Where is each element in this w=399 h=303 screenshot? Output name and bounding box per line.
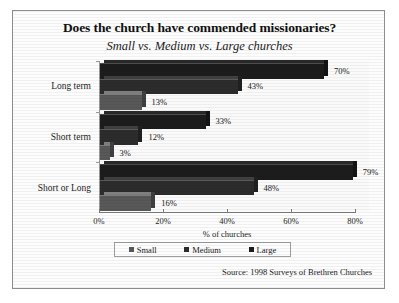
chart-title: Does the church have commended missionar… <box>13 20 386 36</box>
bar-value-label: 48% <box>264 183 280 193</box>
bar-top-face <box>104 76 238 79</box>
bar-side-face <box>206 111 210 127</box>
bar-value-label: 43% <box>248 81 264 91</box>
legend-item-medium[interactable]: Medium <box>184 245 221 255</box>
bar-side-face <box>254 177 258 193</box>
x-axis-tick-label: 0% <box>93 216 104 226</box>
bar-side-face <box>353 161 357 177</box>
legend-swatch-large-icon <box>249 247 254 252</box>
x-axis-tick-label: 80% <box>347 216 363 226</box>
y-axis-tick <box>96 162 100 163</box>
bar-face <box>100 94 142 110</box>
chart-subtitle: Small vs. Medium vs. Large churches <box>13 39 386 54</box>
source-note: Source: 1998 Surveys of Brethren Churche… <box>222 267 372 277</box>
bar-value-label: 12% <box>148 132 164 142</box>
bar-value-label: 33% <box>216 116 232 126</box>
bar-value-label: 16% <box>161 198 177 208</box>
category-label: Long term <box>51 81 91 91</box>
x-axis-tick-label: 20% <box>155 216 171 226</box>
legend-swatch-small-icon <box>129 247 134 252</box>
bar-side-face <box>142 91 146 107</box>
bar-value-label: 79% <box>363 167 379 177</box>
bar-side-face <box>138 126 142 142</box>
bar-side-face <box>110 142 114 158</box>
bar-side-face <box>151 192 155 208</box>
bar-face <box>100 145 110 161</box>
x-axis-tick-label: 60% <box>283 216 299 226</box>
y-axis-tick <box>96 112 100 113</box>
bar-top-face <box>104 60 324 63</box>
bar-top-face <box>104 126 138 129</box>
bar-value-label: 13% <box>152 97 168 107</box>
bar-group: 79%48%16% <box>100 164 356 211</box>
bar-top-face <box>104 177 254 180</box>
bar-top-face <box>104 192 151 195</box>
x-axis-tick-label: 40% <box>219 216 235 226</box>
legend-label: Small <box>137 245 157 255</box>
bar-face <box>100 195 151 211</box>
bar-top-face <box>104 91 142 94</box>
legend-item-large[interactable]: Large <box>249 245 277 255</box>
category-label: Short term <box>51 132 91 142</box>
bar-small-short-or-long[interactable]: 16% <box>100 195 155 211</box>
bar-small-short-term[interactable]: 3% <box>100 145 114 161</box>
bar-value-label: 70% <box>334 66 350 76</box>
category-label: Short or Long <box>38 183 91 193</box>
y-axis-tick <box>96 61 100 62</box>
bar-small-long-term[interactable]: 13% <box>100 94 146 110</box>
legend-item-small[interactable]: Small <box>129 245 157 255</box>
bar-value-label: 3% <box>120 148 131 158</box>
legend-swatch-medium-icon <box>184 247 189 252</box>
bar-side-face <box>238 76 242 92</box>
legend-label: Large <box>257 245 277 255</box>
bar-group: 33%12%3% <box>100 114 356 161</box>
chart-legend: SmallMediumLarge <box>114 242 291 257</box>
bar-group: 70%43%13% <box>100 63 356 110</box>
x-axis-title: % of churches <box>99 229 355 239</box>
bar-side-face <box>324 60 328 76</box>
plot-area: 0%20%40%60%80% Long termShort termShort … <box>99 61 369 213</box>
legend-label: Medium <box>192 245 221 255</box>
bar-top-face <box>104 111 206 114</box>
bar-top-face <box>104 161 353 164</box>
chart-frame: Does the church have commended missionar… <box>12 10 385 289</box>
